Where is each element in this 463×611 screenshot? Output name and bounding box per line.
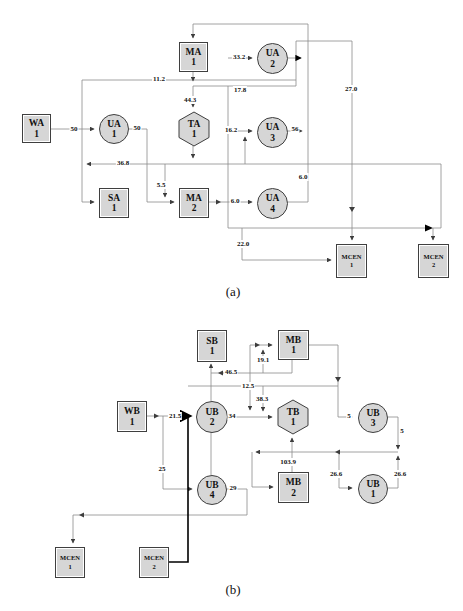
node-a-mcen1: MCEN 1 (336, 244, 367, 278)
node-tb1-label: TB (287, 407, 300, 417)
node-ma1: MA 1 (179, 42, 208, 72)
flow-label-46-5: 46.5 (224, 368, 238, 376)
node-mb1-label: MB (286, 335, 301, 345)
node-mb2: MB 2 (278, 472, 309, 503)
flow-label-5-out: 5 (399, 427, 405, 435)
flow-label-34: 34 (228, 412, 237, 420)
flow-label-36-8: 36.8 (116, 159, 130, 167)
flow-label-16-2: 16.2 (224, 126, 238, 134)
flow-label-103-9: 103.9 (279, 458, 297, 466)
node-a-mcen2: MCEN 2 (418, 244, 449, 278)
flow-label-6-0-a: 6.0 (230, 197, 241, 205)
node-ua3: UA 3 (257, 117, 288, 148)
node-sb1-label: SB (206, 336, 218, 346)
node-ub2: UB 2 (196, 401, 228, 433)
flow-label-19-1: 19.1 (256, 356, 270, 364)
node-wa1: WA 1 (22, 114, 51, 143)
edge-lines (0, 0, 463, 611)
node-sb1: SB 1 (197, 330, 227, 362)
node-wb1-label: WB (124, 406, 140, 416)
node-ua1: UA 1 (99, 114, 129, 144)
node-ta1-label: TA (188, 119, 201, 129)
flow-label-38-3: 38.3 (255, 395, 269, 403)
node-ua2-label: UA (266, 48, 280, 58)
flow-label-5-in: 5 (346, 412, 352, 420)
node-ma2: MA 2 (179, 188, 209, 218)
node-sa1-label: SA (108, 193, 120, 203)
node-b-mcen1-label: MCEN (60, 554, 80, 562)
node-b-mcen2: MCEN 2 (139, 547, 169, 578)
node-ta1: TA 1 (178, 111, 210, 147)
node-ua2: UA 2 (257, 43, 288, 74)
node-ua3-label: UA (266, 122, 280, 132)
node-b-mcen1: MCEN 1 (55, 547, 85, 578)
flow-label-wa1-ua1: 50 (70, 125, 79, 133)
node-ua4-label: UA (266, 193, 280, 203)
caption-a: (a) (226, 284, 240, 300)
node-mb1: MB 1 (278, 330, 309, 360)
caption-b: (b) (225, 582, 240, 598)
flow-label-11-2: 11.2 (152, 75, 166, 83)
flow-label-27-0: 27.0 (344, 85, 358, 93)
node-wb1: WB 1 (117, 401, 147, 432)
node-ma1-label: MA (186, 47, 202, 57)
node-ub3-label: UB (366, 408, 379, 418)
node-ua4: UA 4 (257, 188, 288, 219)
flow-label-44-3: 44.3 (183, 96, 197, 104)
node-a-mcen1-label: MCEN (342, 253, 362, 261)
flow-label-29: 29 (229, 484, 238, 492)
node-b-mcen2-label: MCEN (144, 554, 164, 562)
node-ub1: UB 1 (358, 474, 388, 504)
node-wa1-label: WA (29, 118, 44, 128)
node-sa1: SA 1 (99, 188, 129, 218)
node-ma2-label: MA (186, 193, 202, 203)
flow-label-17-8: 17.8 (233, 86, 247, 94)
flow-label-25: 25 (158, 465, 167, 473)
node-ua1-label: UA (107, 119, 121, 129)
node-mb2-label: MB (286, 477, 301, 487)
flow-label-6-0-b: 6.0 (298, 173, 309, 181)
node-ub3: UB 3 (358, 403, 388, 433)
node-ub4-label: UB (205, 480, 218, 490)
flow-label-ua1-out: 50 (133, 124, 142, 132)
node-ub2-label: UB (205, 407, 218, 417)
node-ub1-label: UB (366, 479, 379, 489)
node-a-mcen2-label: MCEN (424, 253, 444, 261)
flow-diagram-figure: WA 1 UA 1 SA 1 MA 1 TA 1 MA 2 UA 2 UA 3 … (0, 0, 463, 611)
flow-label-21-5: 21.5 (168, 412, 182, 420)
flow-label-26-6-out: 26.6 (393, 470, 407, 478)
flow-label-12-5: 12.5 (241, 382, 255, 390)
flow-label-5-5: 5.5 (156, 181, 167, 189)
flow-label-56: 56 (291, 125, 300, 133)
flow-label-22-0: 22.0 (236, 240, 250, 248)
flow-label-33-2: 33.2 (232, 53, 246, 61)
flow-label-26-6-in: 26.6 (329, 470, 343, 478)
node-ub4: UB 4 (197, 475, 227, 505)
node-tb1: TB 1 (277, 399, 309, 435)
